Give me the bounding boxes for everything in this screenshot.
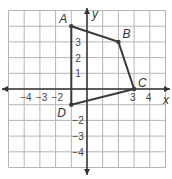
vertex-label-c: C [138, 76, 147, 90]
x-tick-label: −3 [36, 92, 48, 103]
y-tick-label: −2 [72, 115, 84, 126]
coordinate-plane: −4−3−234321−2−3−4 ABCD x y [0, 0, 172, 179]
x-tick-label: −4 [20, 92, 32, 103]
vertex-label-d: D [57, 106, 66, 120]
vertex-point [132, 87, 136, 91]
vertex-point [69, 24, 73, 28]
y-tick-label: 3 [75, 37, 81, 48]
y-axis-label: y [91, 7, 99, 21]
vertex-label-a: A [58, 12, 67, 26]
vertex-point [116, 40, 120, 44]
x-tick-label: 3 [130, 92, 136, 103]
y-tick-label: −3 [72, 131, 84, 142]
y-tick-label: −4 [72, 147, 84, 158]
y-tick-label: 1 [75, 68, 81, 79]
x-tick-label: −2 [52, 92, 64, 103]
vertex-label-b: B [122, 27, 130, 41]
y-tick-label: 2 [75, 53, 81, 64]
x-tick-label: 4 [146, 92, 152, 103]
vertex-point [69, 103, 73, 107]
x-axis-label: x [162, 93, 170, 107]
